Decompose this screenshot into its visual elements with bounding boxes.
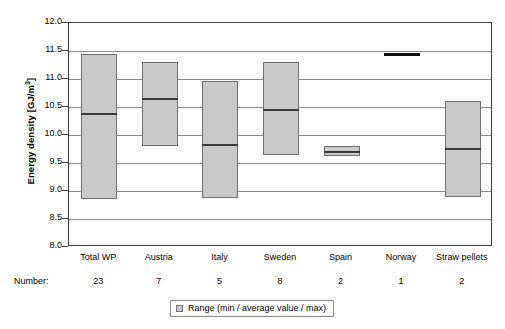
x-axis-label: Italy	[189, 252, 250, 262]
x-axis-label: Austria	[129, 252, 190, 262]
x-axis-label: Sweden	[250, 252, 311, 262]
sample-count-value: 2	[431, 276, 492, 286]
average-value-line	[445, 148, 481, 150]
y-tick-mark	[62, 246, 68, 247]
x-axis-label: Spain	[310, 252, 371, 262]
y-tick-label: 8.0	[22, 241, 62, 250]
sample-count-value: 2	[310, 276, 371, 286]
sample-count-value: 1	[371, 276, 432, 286]
energy-density-chart: Energy density [GJ/m3] 12.011.511.010.51…	[0, 0, 505, 329]
y-tick-label: 8.5	[22, 213, 62, 222]
sample-count-value: 8	[250, 276, 311, 286]
average-value-line	[263, 109, 299, 111]
single-value-marker	[384, 53, 420, 56]
sample-count-value: 5	[189, 276, 250, 286]
y-tick-label: 10.5	[22, 101, 62, 110]
y-tick-label: 9.0	[22, 185, 62, 194]
y-tick-label: 11.5	[22, 45, 62, 54]
gridline	[69, 163, 491, 164]
average-value-line	[142, 98, 178, 100]
chart-legend: Range (min / average value / max)	[170, 300, 334, 317]
average-value-line	[202, 144, 238, 146]
range-bar	[81, 54, 117, 200]
average-value-line	[324, 151, 360, 153]
range-bar	[202, 81, 238, 199]
y-tick-label: 12.0	[22, 17, 62, 26]
range-bar	[142, 62, 178, 146]
x-axis-label: Straw pellets	[431, 252, 492, 262]
gridline	[69, 191, 491, 192]
gridline	[69, 51, 491, 52]
sample-count-value: 7	[129, 276, 190, 286]
x-axis-label: Total WP	[68, 252, 129, 262]
gridline	[69, 219, 491, 220]
y-tick-label: 10.0	[22, 129, 62, 138]
y-tick-label: 9.5	[22, 157, 62, 166]
legend-swatch-icon	[176, 305, 183, 312]
plot-area	[68, 22, 492, 246]
sample-count-value: 23	[68, 276, 129, 286]
legend-label: Range (min / average value / max)	[188, 303, 326, 313]
number-row-caption: Number:	[14, 276, 49, 286]
y-tick-label: 11.0	[22, 73, 62, 82]
average-value-line	[81, 113, 117, 115]
x-axis-label: Norway	[371, 252, 432, 262]
